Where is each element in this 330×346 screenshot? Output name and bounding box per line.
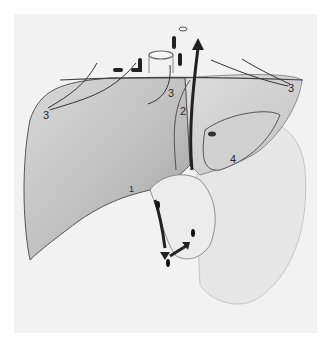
liver-illustration xyxy=(0,0,330,346)
label-3-right: 3 xyxy=(288,83,294,94)
label-2: 2 xyxy=(180,106,186,117)
duct-opening xyxy=(156,201,160,209)
vessel-stub xyxy=(113,68,123,72)
label-1: 1 xyxy=(129,185,134,194)
duct-opening-4 xyxy=(208,132,216,137)
arrow-up-icon xyxy=(192,38,204,50)
label-4: 4 xyxy=(230,154,236,165)
vena-cava-top xyxy=(149,51,173,59)
duct-opening-3 xyxy=(166,259,170,267)
duct-opening-2 xyxy=(191,229,195,237)
label-3-center: 3 xyxy=(168,88,174,99)
label-3-left: 3 xyxy=(43,110,49,121)
vessel-stub-vertical xyxy=(174,38,180,64)
arrow-down-icon xyxy=(160,252,170,260)
vessel-ring-top xyxy=(179,27,187,31)
